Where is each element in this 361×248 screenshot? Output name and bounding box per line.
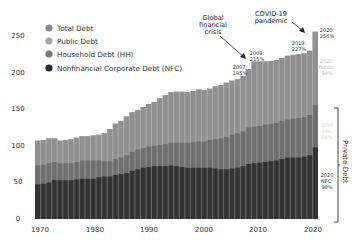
legend-label-household: Household Debt (HH) [57, 50, 134, 59]
covid-arrowhead-icon [299, 27, 305, 33]
plot-area [35, 32, 318, 219]
private-debt-bracket: Private Debt [334, 108, 349, 222]
covid-annotation: COVID-19 pandemic [255, 10, 305, 33]
public-2020-line-3: 99% [321, 70, 332, 76]
nfc-2020-label: 2020 NFC: 98% [321, 172, 334, 190]
x-tick-1990: 1990 [140, 226, 158, 234]
legend-swatch-nfc [45, 64, 52, 71]
legend-label-nfc: Nonfinancial Corporate Debt (NFC) [57, 64, 182, 73]
x-axis: 1970 1980 1990 2000 2010 2020 [31, 226, 322, 234]
public-2020-label: 2020: Public: 99% [319, 58, 336, 76]
gfc-annotation: Global financial crisis [199, 14, 246, 59]
label-2020-value: 256% [320, 33, 335, 39]
x-tick-1980: 1980 [86, 226, 104, 234]
y-tick-200: 200 [11, 69, 24, 77]
x-tick-1970: 1970 [31, 226, 49, 234]
y-tick-250: 250 [11, 32, 24, 40]
y-tick-150: 150 [11, 105, 24, 113]
legend-swatch-total [45, 24, 52, 31]
x-tick-2000: 2000 [195, 226, 213, 234]
gfc-line-3: crisis [205, 28, 222, 36]
legend-label-total: Total Debt [56, 24, 94, 33]
legend-label-public: Public Debt [57, 37, 98, 46]
x-tick-2020: 2020 [304, 226, 322, 234]
label-2019-value: 227% [292, 46, 307, 52]
gfc-arrow [220, 36, 244, 57]
y-tick-100: 100 [11, 142, 24, 150]
y-tick-50: 50 [14, 178, 23, 186]
bracket-line [334, 108, 338, 222]
hh-2020-line-3: 58% [321, 134, 332, 140]
legend-swatch-public [45, 37, 52, 44]
private-debt-label: Private Debt [341, 140, 349, 184]
y-tick-0: 0 [16, 215, 20, 223]
label-2007-value: 195% [233, 70, 248, 76]
x-tick-2010: 2010 [249, 226, 267, 234]
legend: Total Debt Public Debt Household Debt (H… [45, 24, 182, 73]
covid-line-2: pandemic [255, 17, 288, 25]
label-2009-value: 215% [250, 56, 265, 62]
debt-stacked-area-chart: 0 50 100 150 200 250 1970 1980 1990 2000… [0, 0, 361, 248]
y-axis: 0 50 100 150 200 250 [11, 32, 24, 223]
legend-swatch-household [45, 50, 52, 57]
hh-2020-label: 2020 HH: 58% [321, 122, 334, 140]
nfc-2020-line-3: 98% [321, 184, 332, 190]
